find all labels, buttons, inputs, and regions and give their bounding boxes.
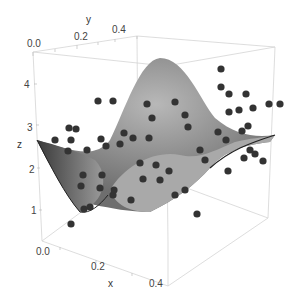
data-point xyxy=(244,122,251,129)
data-point xyxy=(51,136,58,143)
y-axis-label: y xyxy=(86,14,91,25)
data-point xyxy=(139,175,146,182)
z-tick-1: 1 xyxy=(31,205,37,216)
z-tick-4: 4 xyxy=(24,79,30,90)
data-point xyxy=(72,125,79,132)
x-tick-2: 0.4 xyxy=(149,278,163,289)
3d-plot[interactable]: 0.0 0.2 0.4 y 4 3 2 1 z 0.0 0.2 0.4 x xyxy=(0,0,289,307)
data-point xyxy=(193,210,200,217)
data-point xyxy=(265,100,272,107)
data-point xyxy=(136,159,143,166)
data-point xyxy=(235,106,242,113)
data-point xyxy=(184,123,191,130)
data-point xyxy=(214,128,221,135)
data-point xyxy=(181,111,188,118)
data-point xyxy=(225,108,232,115)
data-point xyxy=(201,156,208,163)
data-point xyxy=(96,184,103,191)
data-point xyxy=(259,157,266,164)
data-point xyxy=(181,186,188,193)
x-tick-1: 0.2 xyxy=(91,261,105,272)
y-tick-1: 0.2 xyxy=(74,31,88,42)
data-point xyxy=(148,114,155,121)
y-tick-2: 0.4 xyxy=(112,24,126,35)
data-point xyxy=(217,83,224,90)
x-axis-label: x xyxy=(108,278,113,289)
data-point xyxy=(276,100,283,107)
data-point xyxy=(196,146,203,153)
data-point xyxy=(65,124,72,131)
data-point xyxy=(79,171,86,178)
data-point xyxy=(64,147,71,154)
data-point xyxy=(171,98,178,105)
z-tick-2: 2 xyxy=(29,164,35,175)
data-point xyxy=(127,196,134,203)
data-point xyxy=(94,97,101,104)
data-point xyxy=(145,134,152,141)
data-point xyxy=(110,186,117,193)
z-axis-label: z xyxy=(17,139,22,150)
data-point xyxy=(67,220,74,227)
data-point xyxy=(109,97,116,104)
x-tick-0: 0.0 xyxy=(36,246,50,257)
data-point xyxy=(152,161,159,168)
data-point xyxy=(171,191,178,198)
data-point xyxy=(116,140,123,147)
data-point xyxy=(98,171,105,178)
data-point xyxy=(224,167,231,174)
data-point xyxy=(238,127,245,134)
y-tick-0: 0.0 xyxy=(27,38,41,49)
data-point xyxy=(222,136,229,143)
data-point xyxy=(251,150,258,157)
z-tick-3: 3 xyxy=(27,122,33,133)
data-point xyxy=(97,135,104,142)
data-point xyxy=(249,104,256,111)
data-point xyxy=(242,90,249,97)
data-point xyxy=(80,205,87,212)
data-point xyxy=(83,146,90,153)
data-point xyxy=(165,167,172,174)
data-point xyxy=(77,182,84,189)
data-point xyxy=(67,136,74,143)
data-point xyxy=(120,129,127,136)
data-point xyxy=(102,142,109,149)
data-point xyxy=(225,90,232,97)
data-point xyxy=(156,176,163,183)
data-point xyxy=(143,100,150,107)
data-point xyxy=(217,65,224,72)
data-point xyxy=(129,134,136,141)
data-point xyxy=(240,154,247,161)
